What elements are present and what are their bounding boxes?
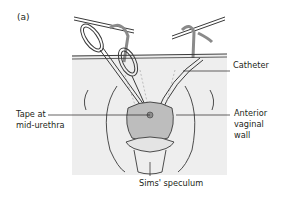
label-anterior-vaginal-wall: Anterior vaginal wall (234, 108, 267, 141)
label-anterior-line2: vaginal (234, 119, 267, 130)
label-sims-speculum: Sims' speculum (139, 178, 203, 189)
label-anterior-line3: wall (234, 130, 267, 141)
surgical-illustration (0, 0, 283, 207)
label-anterior-line1: Anterior (234, 108, 267, 119)
label-tape-at-mid-urethra: Tape at mid-urethra (16, 109, 65, 131)
anterior-vaginal-wall (127, 102, 174, 141)
label-tape-line1: Tape at (16, 109, 65, 120)
label-tape-line2: mid-urethra (16, 120, 65, 131)
label-catheter: Catheter (233, 60, 269, 71)
